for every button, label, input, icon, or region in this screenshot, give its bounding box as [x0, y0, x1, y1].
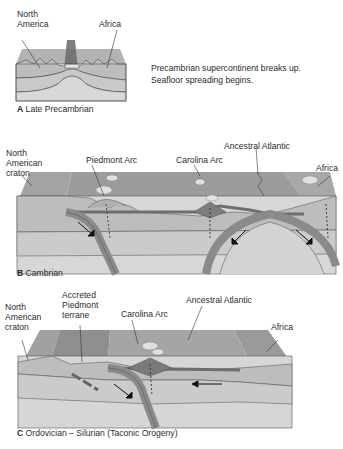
- caption-c-letter: C: [17, 428, 23, 438]
- label-ancestral-atlantic-c: Ancestral Atlantic: [186, 295, 252, 305]
- caption-c: C Ordovician – Silurian (Taconic Orogeny…: [17, 428, 178, 438]
- label-carolina-arc-c: Carolina Arc: [121, 309, 168, 319]
- caption-c-text: Ordovician – Silurian (Taconic Orogeny): [26, 428, 178, 438]
- label-africa-c: Africa: [271, 322, 293, 332]
- panel-c-diagram: [0, 0, 343, 449]
- label-north-american-craton-c: North American craton: [5, 302, 41, 332]
- label-accreted-piedmont-terrane: Accreted Piedmont terrane: [62, 290, 98, 320]
